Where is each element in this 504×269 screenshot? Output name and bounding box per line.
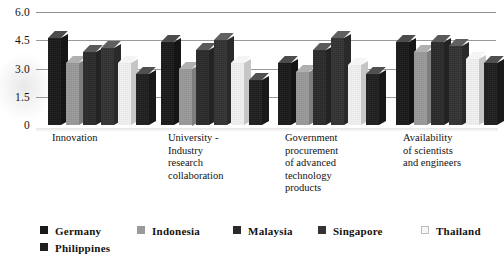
legend-row: GermanyIndonesiaMalaysiaSingaporeThailan… [40, 224, 498, 241]
legend-swatch [421, 226, 429, 234]
y-axis-tick-label: 0 [0, 119, 30, 131]
bar-front-face [136, 74, 149, 125]
bar [196, 50, 209, 125]
bar-front-face [278, 63, 291, 125]
bar [48, 38, 61, 125]
legend-item[interactable]: Malaysia [233, 224, 293, 237]
legend: GermanyIndonesiaMalaysiaSingaporeThailan… [40, 224, 498, 258]
bar-group [161, 10, 266, 130]
bar-side-face [379, 70, 386, 125]
bar-front-face [83, 52, 96, 125]
bar-front-face [431, 42, 444, 125]
bar [449, 46, 462, 125]
bar [179, 69, 192, 126]
bar [161, 42, 174, 125]
bar [278, 63, 291, 125]
legend-label: Thailand [436, 225, 481, 237]
y-axis-labels: 6.04.53.01.50 [0, 10, 34, 130]
y-axis-tick-label: 3.0 [0, 63, 30, 75]
bar-front-face [214, 40, 227, 125]
bar-front-face [179, 69, 192, 126]
x-axis-category-labels: InnovationUniversity - Industry research… [36, 132, 498, 212]
bar [296, 72, 309, 125]
bar-front-face [484, 63, 497, 125]
bar-front-face [118, 63, 131, 125]
bar [348, 65, 361, 125]
bar-front-face [101, 48, 114, 125]
category-label: Availability of scientists and engineers [403, 132, 461, 170]
legend-swatch [137, 226, 145, 234]
bar [83, 52, 96, 125]
bar-group [396, 10, 501, 130]
legend-item[interactable]: Thailand [421, 224, 481, 237]
bar [214, 40, 227, 125]
bar [231, 63, 244, 125]
legend-item[interactable]: Singapore [318, 224, 383, 237]
bar-group [48, 10, 153, 130]
bar-front-face [296, 72, 309, 125]
bar-front-face [313, 50, 326, 125]
legend-label: Germany [55, 225, 101, 237]
y-axis-tick-label: 1.5 [0, 91, 30, 103]
bar-front-face [249, 80, 262, 125]
legend-swatch [40, 226, 48, 234]
legend-item[interactable]: Philippines [40, 241, 110, 254]
bar-front-face [231, 63, 244, 125]
bar [101, 48, 114, 125]
legend-item[interactable]: Germany [40, 224, 101, 237]
legend-swatch [233, 226, 241, 234]
bar [466, 59, 479, 125]
bar-front-face [366, 74, 379, 125]
category-label: Government procurement of advanced techn… [285, 132, 338, 195]
category-label: Innovation [52, 132, 98, 145]
plot-area [36, 10, 498, 130]
legend-label: Indonesia [152, 225, 200, 237]
bar-side-face [497, 59, 504, 125]
legend-item[interactable]: Indonesia [137, 224, 200, 237]
bar-side-face [149, 70, 156, 125]
legend-swatch [318, 226, 326, 234]
bar [331, 38, 344, 125]
legend-swatch [40, 243, 48, 251]
legend-label: Malaysia [248, 225, 293, 237]
legend-label: Philippines [55, 242, 110, 254]
bar-front-face [48, 38, 61, 125]
bar [66, 63, 79, 125]
bar-groups [36, 10, 498, 130]
legend-row: Philippines [40, 241, 498, 258]
bar-group [278, 10, 383, 130]
bar-front-face [396, 42, 409, 125]
bar-front-face [161, 42, 174, 125]
bar [118, 63, 131, 125]
bar-front-face [331, 38, 344, 125]
bar-front-face [196, 50, 209, 125]
y-axis-tick-label: 4.5 [0, 34, 30, 46]
bar [414, 52, 427, 125]
bar-side-face [262, 76, 269, 125]
y-axis-tick-label: 6.0 [0, 6, 30, 18]
bar-front-face [414, 52, 427, 125]
bar [484, 63, 497, 125]
bar-front-face [66, 63, 79, 125]
bar-front-face [348, 65, 361, 125]
legend-label: Singapore [333, 225, 383, 237]
bar [136, 74, 149, 125]
bar [366, 74, 379, 125]
category-label: University - Industry research collabora… [168, 132, 223, 182]
bar [431, 42, 444, 125]
bar-front-face [466, 59, 479, 125]
bar [313, 50, 326, 125]
bar-front-face [449, 46, 462, 125]
bar [396, 42, 409, 125]
bar [249, 80, 262, 125]
